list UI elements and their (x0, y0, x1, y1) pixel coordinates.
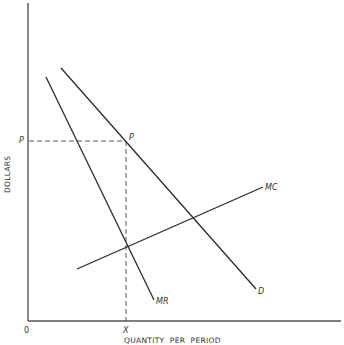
y-tick-p-label: P (19, 136, 24, 145)
marginal-revenue-label: MR (156, 297, 168, 306)
origin-label: 0 (24, 326, 29, 335)
demand-curve (61, 68, 256, 289)
monopoly-diagram: D MR MC P P X 0 QUANTITY PER PERIOD DOLL… (0, 0, 344, 345)
marginal-revenue-curve (46, 77, 154, 300)
x-tick-x-label: X (122, 326, 129, 335)
y-axis-title: DOLLARS (3, 156, 12, 193)
x-axis-title: QUANTITY PER PERIOD (124, 336, 221, 345)
marginal-cost-label: MC (265, 183, 278, 192)
price-point-label: P (129, 133, 134, 142)
demand-label: D (258, 287, 264, 296)
